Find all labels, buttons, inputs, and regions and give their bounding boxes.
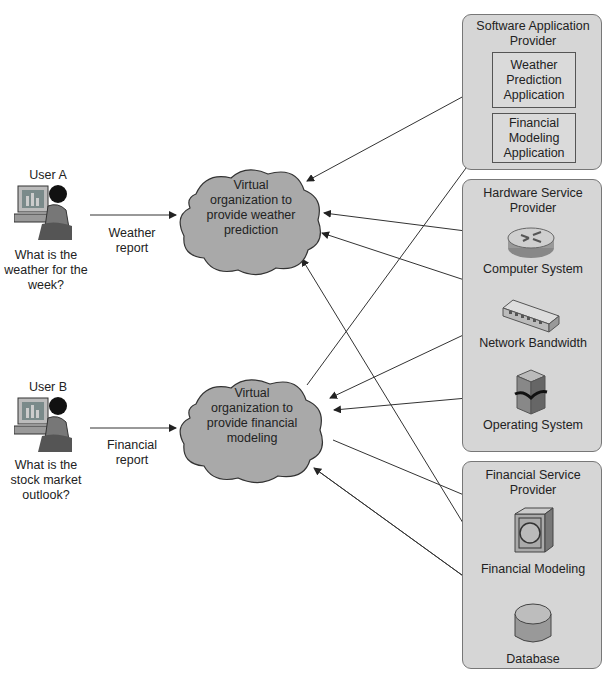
financial-modeling-label: Financial Modeling: [463, 562, 603, 577]
user-a-request-label: Weather report: [100, 226, 164, 256]
user-b-request-label: Financial report: [100, 438, 164, 468]
operating-system-label: Operating System: [463, 418, 603, 433]
financial-provider-box: Financial Service Provider Financial Mod…: [462, 461, 602, 669]
financial-modeling-app-box: Financial Modeling Application: [492, 113, 576, 163]
financial-modeling-app-label: Financial Modeling Application: [493, 116, 575, 161]
hardware-provider-title: Hardware Service Provider: [463, 186, 603, 216]
network-bandwidth-label: Network Bandwidth: [463, 336, 603, 351]
user-at-computer-icon: [14, 184, 76, 242]
financial-modeling-server-icon: [513, 506, 555, 554]
database-label: Database: [463, 652, 603, 667]
network-switch-icon: [501, 298, 561, 334]
user-at-computer-icon: [14, 396, 76, 454]
cloud-weather-org: Virtual organization to provide weather …: [176, 164, 326, 278]
software-provider-box: Software Application Provider Weather Pr…: [462, 14, 602, 170]
router-icon: [507, 226, 555, 260]
user-a-question: What is the weather for the week?: [0, 248, 92, 293]
financial-provider-title: Financial Service Provider: [463, 468, 603, 498]
software-provider-title: Software Application Provider: [463, 19, 603, 49]
computer-system-label: Computer System: [463, 262, 603, 277]
user-b-question: What is the stock market outlook?: [0, 458, 92, 503]
database-icon: [513, 602, 553, 648]
cloud-weather-label: Virtual organization to provide weather …: [204, 178, 298, 238]
hardware-provider-box: Hardware Service Provider Computer Syste…: [462, 179, 602, 452]
cloud-financial-org: Virtual organization to provide financia…: [176, 374, 328, 486]
weather-prediction-app-box: Weather Prediction Application: [492, 52, 576, 108]
user-a-label: User A: [18, 168, 78, 183]
cloud-financial-label: Virtual organization to provide financia…: [204, 386, 300, 446]
user-b-label: User B: [18, 380, 78, 395]
weather-prediction-app-label: Weather Prediction Application: [493, 58, 575, 103]
operating-system-icon: [513, 368, 549, 416]
